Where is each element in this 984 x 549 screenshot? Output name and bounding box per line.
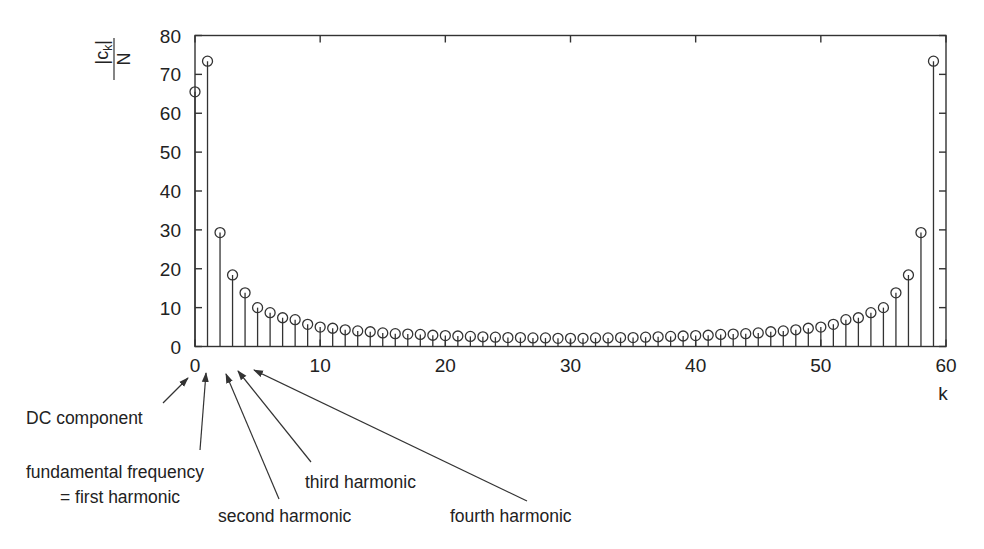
stem-point xyxy=(766,327,776,347)
stem-point xyxy=(791,325,801,347)
stem-point xyxy=(691,331,701,347)
y-tick-label: 40 xyxy=(160,181,181,202)
stem-point xyxy=(503,333,513,347)
stem-point xyxy=(465,331,475,346)
stem-point xyxy=(290,315,300,347)
stem-point xyxy=(453,331,463,346)
y-tick-label: 30 xyxy=(160,220,181,241)
annotation-dc-component: DC component xyxy=(26,408,143,428)
stem-point xyxy=(540,333,550,347)
stem-point xyxy=(440,331,450,347)
x-tick-label: 20 xyxy=(435,355,456,376)
stem-point xyxy=(378,328,388,347)
stem-point xyxy=(903,270,913,347)
annotation-third-harmonic: third harmonic xyxy=(305,472,416,492)
stem-point xyxy=(415,329,425,346)
stem-point xyxy=(328,323,338,346)
stem-point xyxy=(228,270,238,347)
y-label-denominator: N xyxy=(114,53,134,66)
stem-point xyxy=(566,333,576,346)
stem-point xyxy=(340,325,350,347)
y-tick-label: 80 xyxy=(160,26,181,47)
stem-point xyxy=(678,331,688,346)
stem-point xyxy=(353,326,363,347)
stem-point xyxy=(828,319,838,346)
y-axis-ticks: 01020304050607080 xyxy=(160,26,946,358)
y-tick-label: 50 xyxy=(160,142,181,163)
stem-point xyxy=(253,303,263,347)
data-stems xyxy=(190,56,938,346)
stem-point xyxy=(240,288,250,347)
x-tick-label: 40 xyxy=(685,355,706,376)
x-axis-ticks: 0102030405060 xyxy=(190,36,957,377)
stem-point xyxy=(490,332,500,346)
x-tick-label: 50 xyxy=(810,355,831,376)
stem-point xyxy=(741,329,751,347)
svg-text:|ck|: |ck| xyxy=(92,40,115,64)
stem-point xyxy=(515,333,525,347)
x-tick-label: 0 xyxy=(190,355,201,376)
y-axis-label: |ck| N xyxy=(92,38,134,80)
stem-point xyxy=(528,333,538,347)
stem-point xyxy=(403,329,413,346)
x-tick-label: 10 xyxy=(310,355,331,376)
x-axis-label: k xyxy=(938,383,948,404)
y-label-numerator-end: | xyxy=(92,40,112,45)
y-tick-label: 60 xyxy=(160,103,181,124)
annotations: DC component fundamental frequency = fir… xyxy=(26,408,572,526)
stem-point xyxy=(390,329,400,347)
stem-point xyxy=(803,323,813,346)
stem-point xyxy=(203,56,213,346)
stem-point xyxy=(303,319,313,346)
stem-point xyxy=(916,228,926,347)
stem-point xyxy=(891,288,901,347)
stem-point xyxy=(853,313,863,347)
stem-point xyxy=(365,327,375,347)
stem-point xyxy=(478,332,488,347)
stem-point xyxy=(703,330,713,346)
stem-point xyxy=(315,322,325,346)
annotation-first-harmonic: = first harmonic xyxy=(60,487,180,507)
arrow-second xyxy=(226,374,279,499)
y-label-numerator: |c xyxy=(92,51,112,65)
stem-point xyxy=(265,308,275,347)
x-tick-label: 30 xyxy=(560,355,581,376)
y-tick-label: 20 xyxy=(160,259,181,280)
stem-plot: |ck| N 01020304050607080 0102030405060 k… xyxy=(0,0,984,549)
stem-point xyxy=(866,308,876,347)
stem-point xyxy=(578,333,588,346)
stem-point xyxy=(778,326,788,347)
stem-point xyxy=(591,333,601,347)
stem-point xyxy=(428,330,438,346)
stem-point xyxy=(628,333,638,347)
stem-point xyxy=(278,313,288,347)
arrow-third xyxy=(238,371,311,462)
stem-point xyxy=(666,331,676,346)
stem-point xyxy=(653,332,663,347)
plot-frame xyxy=(195,36,946,347)
y-tick-label: 10 xyxy=(160,298,181,319)
stem-point xyxy=(553,333,563,346)
stem-point xyxy=(716,329,726,346)
stem-point xyxy=(641,332,651,346)
y-tick-label: 0 xyxy=(170,337,181,358)
annotation-fundamental-frequency: fundamental frequency xyxy=(26,462,204,482)
stem-point xyxy=(928,56,938,346)
stem-point xyxy=(753,328,763,347)
stem-point xyxy=(878,303,888,347)
arrow-dc xyxy=(163,378,188,403)
stem-point xyxy=(616,333,626,347)
stem-point xyxy=(841,315,851,347)
x-tick-label: 60 xyxy=(935,355,956,376)
stem-point xyxy=(215,228,225,347)
y-tick-label: 70 xyxy=(160,64,181,85)
annotation-fourth-harmonic: fourth harmonic xyxy=(450,506,572,526)
stem-point xyxy=(816,322,826,346)
annotation-second-harmonic: second harmonic xyxy=(218,506,352,526)
arrow-fundamental xyxy=(200,373,206,450)
stem-point xyxy=(728,329,738,346)
stem-point xyxy=(603,333,613,347)
